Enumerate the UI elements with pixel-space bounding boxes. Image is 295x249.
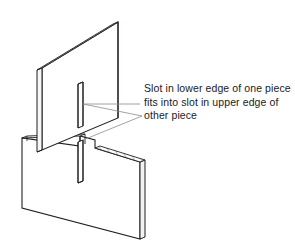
annotation-label: Slot in lower edge of one piece fits int… <box>144 82 294 123</box>
upper-piece-left-thickness <box>37 68 42 152</box>
slot-joint-diagram <box>0 0 295 249</box>
diagram-page: Slot in lower edge of one piece fits int… <box>0 0 295 249</box>
upper-piece <box>37 22 118 152</box>
lower-piece-slot <box>78 140 83 183</box>
lower-piece-right-thickness <box>140 160 145 239</box>
upper-piece-slot <box>78 82 83 128</box>
